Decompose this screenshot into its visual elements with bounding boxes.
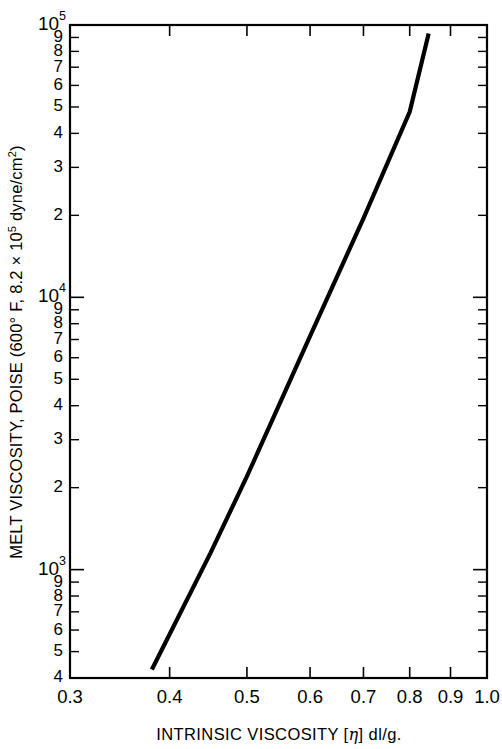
y-axis-tick-label: 5 — [54, 641, 63, 660]
y-axis-tick-label: 3 — [54, 157, 63, 176]
y-axis-tick-label: 6 — [54, 347, 63, 366]
y-axis-tick-label: 4 — [54, 667, 63, 686]
y-axis-tick-label: 5 — [54, 369, 63, 388]
figure-background — [0, 0, 502, 749]
x-axis-tick-label: 0.7 — [351, 686, 377, 707]
x-axis-tick-label: 0.6 — [297, 686, 323, 707]
x-axis-tick-label: 1.0 — [474, 686, 500, 707]
y-axis-tick-label: 5 — [54, 96, 63, 115]
y-axis-tick-label: 2 — [54, 205, 63, 224]
x-axis-tick-label: 0.9 — [438, 686, 464, 707]
y-axis-title: MELT VISCOSITY, POISE (600° F, 8.2 × 105… — [6, 145, 25, 559]
x-axis-tick-label: 0.4 — [157, 686, 183, 707]
y-axis-tick-label: 4 — [54, 395, 63, 414]
y-axis-tick-label: 3 — [54, 429, 63, 448]
y-axis-tick-label: 6 — [54, 75, 63, 94]
y-axis-tick-label: 6 — [54, 620, 63, 639]
x-axis-title: INTRINSIC VISCOSITY [η] dl/g. — [156, 725, 402, 744]
log-log-plot: 4567891032345678910423456789105 0.30.40.… — [0, 0, 502, 749]
x-axis-tick-label: 0.8 — [397, 686, 423, 707]
x-axis-tick-label: 0.3 — [57, 686, 83, 707]
y-axis-tick-label: 2 — [54, 477, 63, 496]
x-axis-tick-label: 0.5 — [234, 686, 260, 707]
y-axis-tick-label: 4 — [54, 123, 63, 142]
chart-figure: 4567891032345678910423456789105 0.30.40.… — [0, 0, 502, 749]
